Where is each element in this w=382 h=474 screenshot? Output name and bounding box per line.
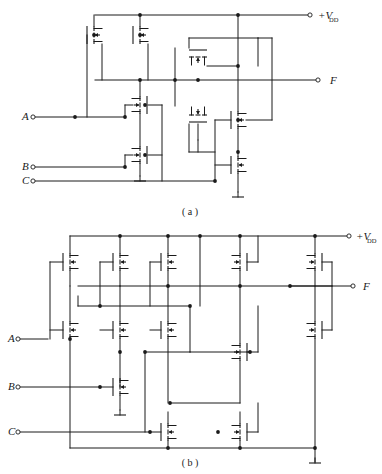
b-junction-14 [148, 430, 152, 434]
cap-a: ( a ) [182, 206, 198, 218]
a-junction-6 [123, 115, 127, 119]
a-junction-2 [138, 78, 142, 82]
b-output-label: F [362, 280, 370, 292]
a-input-terminal-a[interactable] [31, 115, 35, 119]
b-junction-19 [313, 446, 317, 450]
b-input-label-b: B [8, 380, 15, 392]
a-nmos-r2-bulk-arrow [239, 163, 242, 167]
b-nm-2-bulk-arrow [169, 328, 172, 332]
a-input-label-a: A [21, 110, 29, 122]
b-junction-6 [238, 284, 242, 288]
b-junction-20 [168, 401, 172, 405]
b-pu-1-bulk-arrow [121, 260, 124, 264]
cap-b: ( b ) [182, 457, 199, 469]
b-junction-10 [118, 350, 122, 354]
a-junction-9 [143, 153, 147, 157]
a-nmos-a-bulk-arrow [136, 103, 139, 107]
b-junction-2 [198, 234, 202, 238]
a-tg-bot-bulk-arrow [196, 111, 200, 114]
b-input-terminal-b[interactable] [16, 385, 20, 389]
b-inv-p-bulk-arrow [71, 260, 74, 264]
a-nmos-b-bulk-arrow [136, 153, 139, 157]
b-inv-n-bulk-arrow [71, 328, 74, 332]
a-tg-top-bulk-arrow [196, 58, 200, 61]
a-junction-13 [92, 33, 96, 37]
b-junction-18 [238, 446, 242, 450]
a-vdd-subscript: DD [329, 16, 339, 23]
b-junction-0 [118, 234, 122, 238]
schematic-sheet: +VDDFABC+VDDFABC( a )( b ) [0, 0, 382, 474]
b-junction-9 [188, 304, 192, 308]
a-junction-15 [236, 150, 240, 154]
a-junction-0 [138, 13, 142, 17]
b-junction-4 [313, 234, 317, 238]
b-pu-3-bulk-arrow [236, 260, 239, 264]
a-input-label-b: B [22, 160, 29, 172]
b-junction-5 [166, 284, 170, 288]
a-vdd-terminal[interactable] [308, 13, 312, 17]
b-input-label-c: C [8, 425, 16, 437]
a-junction-11 [236, 64, 240, 68]
b-pu-4-bulk-arrow [311, 260, 314, 264]
b-vdd-terminal[interactable] [347, 234, 351, 238]
a-input-label-c: C [22, 174, 30, 186]
b-junction-13 [248, 350, 252, 354]
b-input-terminal-a[interactable] [16, 337, 20, 341]
b-nm-b1-bulk-arrow [121, 385, 124, 389]
a-junction-5 [73, 115, 77, 119]
b-junction-17 [166, 446, 170, 450]
b-vdd-subscript: DD [367, 237, 377, 244]
a-input-terminal-c[interactable] [31, 179, 35, 183]
a-junction-4 [196, 78, 200, 82]
b-out-n-bulk-arrow [311, 328, 314, 332]
b-pu-2-bulk-arrow [169, 260, 172, 264]
circuit-schematic-svg: +VDDFABC+VDDFABC( a )( b ) [0, 0, 382, 474]
b-nm-1-bulk-arrow [121, 328, 124, 332]
a-junction-14 [138, 33, 142, 37]
b-output-terminal-f[interactable] [351, 284, 355, 288]
b-nm-c1-bulk-arrow [169, 430, 172, 434]
a-output-label: F [329, 74, 337, 86]
b-junction-1 [166, 234, 170, 238]
a-junction-10 [213, 179, 217, 183]
b-junction-12 [98, 385, 102, 389]
a-junction-7 [143, 103, 147, 107]
b-nm-c2-bulk-arrow [236, 430, 239, 434]
b-junction-11 [143, 350, 147, 354]
a-input-terminal-b[interactable] [31, 165, 35, 169]
b-junction-16 [68, 337, 72, 341]
b-junction-8 [98, 304, 102, 308]
a-junction-1 [236, 13, 240, 17]
a-junction-8 [123, 165, 127, 169]
a-output-terminal-f[interactable] [316, 78, 320, 82]
b-junction-3 [238, 234, 242, 238]
b-input-terminal-c[interactable] [16, 430, 20, 434]
b-junction-7 [288, 284, 292, 288]
b-junction-15 [216, 430, 220, 434]
b-input-label-a: A [7, 332, 15, 344]
a-junction-12 [236, 118, 240, 122]
a-junction-3 [173, 78, 177, 82]
